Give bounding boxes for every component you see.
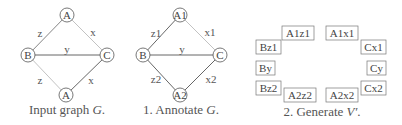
svg-text:Cx1: Cx1 (364, 41, 382, 53)
svg-text:B: B (139, 49, 146, 61)
svg-text:A2x2: A2x2 (330, 89, 354, 101)
edge-label: z (38, 74, 43, 86)
panel-generate: A1z1 A1x1 Bz1 Cx1 By Cy Bz2 Cx2 (256, 26, 386, 119)
svg-text:Bz2: Bz2 (260, 82, 278, 94)
caption-generate: 2. Generate V′. (283, 104, 360, 119)
vertex-box: Bz2 (256, 81, 281, 95)
edge-a1-b (143, 15, 180, 55)
svg-text:C: C (216, 49, 223, 61)
vertex-box: Cx2 (361, 81, 386, 95)
svg-text:A1x1: A1x1 (330, 27, 354, 39)
edge-labels: z1 x1 y z2 x2 (151, 26, 217, 85)
vertex-box: Cx1 (361, 40, 386, 54)
vertex-box: A1x1 (326, 26, 358, 40)
edge-top-right (67, 15, 107, 55)
edge-label: z1 (151, 27, 161, 39)
node-b: B (21, 48, 35, 62)
node-a2: A2 (173, 88, 187, 102)
node-c: C (100, 48, 114, 62)
node-a-top: A (60, 8, 74, 22)
node-a-bottom: A (59, 88, 73, 102)
vertex-box: A2x2 (326, 88, 358, 102)
vertex-box: A2z2 (284, 88, 316, 102)
svg-text:A1: A1 (173, 9, 186, 21)
edge-label: x1 (205, 26, 216, 38)
svg-text:A1z1: A1z1 (286, 27, 310, 39)
edge-label: y (179, 43, 185, 55)
svg-text:Cx2: Cx2 (364, 82, 382, 94)
caption-input-graph: Input graph G. (29, 102, 105, 117)
diagram-canvas: z x y z x A B C A Input graph G. (0, 0, 402, 125)
vertex-box: By (256, 61, 275, 75)
panel-annotate: z1 x1 y z2 x2 A1 B C A2 1. Annota (136, 8, 227, 117)
edge-left-bottom (28, 55, 66, 95)
svg-text:A2z2: A2z2 (288, 89, 312, 101)
svg-text:C: C (103, 49, 110, 61)
svg-text:By: By (259, 62, 272, 74)
svg-text:A: A (62, 89, 70, 101)
svg-text:A: A (63, 9, 71, 21)
vertex-box: A1z1 (282, 26, 314, 40)
svg-text:B: B (24, 49, 31, 61)
svg-text:A2: A2 (173, 89, 186, 101)
caption-annotate: 1. Annotate G. (143, 102, 219, 117)
edge-top-left (28, 15, 67, 55)
edge-label: x2 (206, 73, 217, 85)
vertex-box: Cy (367, 61, 386, 75)
edge-label: x (90, 26, 96, 38)
edge-label: z (38, 27, 43, 39)
svg-text:Bz1: Bz1 (260, 41, 278, 53)
edge-label: y (64, 43, 70, 55)
edge-label: z2 (151, 73, 161, 85)
node-b: B (136, 48, 150, 62)
svg-text:Cy: Cy (370, 62, 383, 74)
panel-input-graph: z x y z x A B C A Input graph G. (21, 8, 114, 117)
node-a1: A1 (173, 8, 187, 22)
edge-bottom-right (66, 55, 107, 95)
node-c: C (213, 48, 227, 62)
edge-label: x (88, 74, 94, 86)
vertex-box: Bz1 (256, 40, 281, 54)
